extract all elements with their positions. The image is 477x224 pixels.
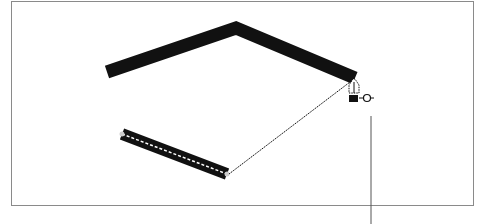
anchor-point-start[interactable] [120,132,125,137]
connecting-path-segment [229,82,350,174]
pen-tool-close-path-icon [349,79,374,102]
lower-selected-stroke[interactable] [120,132,230,177]
illustration-canvas [0,0,477,224]
anchor-point-end[interactable] [225,172,230,177]
upper-stroke [107,28,355,78]
